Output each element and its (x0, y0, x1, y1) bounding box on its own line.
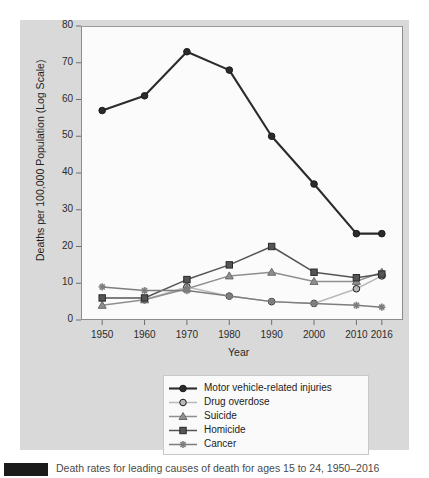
legend-label: Motor vehicle-related injuries (198, 382, 332, 393)
y-tick-label: 50 (62, 129, 73, 140)
data-point-asterisk (99, 283, 106, 290)
y-tick-label: 20 (62, 240, 73, 251)
chart-legend: Motor vehicle-related injuriesDrug overd… (163, 375, 369, 455)
data-point-circle (353, 230, 360, 237)
y-tick-label: 80 (62, 19, 73, 30)
data-point-asterisk (183, 287, 190, 294)
data-point-square (379, 271, 385, 277)
figure-caption: Death rates for leading causes of death … (0, 459, 429, 478)
data-point-asterisk (353, 302, 360, 309)
legend-item[interactable]: Cancer (168, 436, 362, 450)
data-point-asterisk (268, 298, 275, 305)
x-axis-title: Year (228, 346, 249, 358)
series-suicide (98, 268, 386, 308)
legend-swatch-circle-icon (168, 395, 198, 408)
data-series-layer (98, 48, 386, 310)
data-point-circle (268, 133, 275, 140)
data-point-square (180, 427, 186, 433)
data-point-square (268, 243, 274, 249)
x-tick-label: 2000 (300, 329, 328, 340)
legend-label: Suicide (198, 410, 237, 421)
legend-label: Homicide (198, 424, 246, 435)
data-point-asterisk (310, 300, 317, 307)
series-drug-overdose (141, 273, 385, 307)
data-point-circle (353, 285, 360, 292)
legend-swatch-square-icon (168, 423, 198, 436)
data-point-square (311, 269, 317, 275)
y-tick-label: 30 (62, 203, 73, 214)
data-point-square (226, 262, 232, 268)
data-point-square (99, 295, 105, 301)
data-point-asterisk (226, 293, 233, 300)
chart-panel: 01020304050607080 1950196019701980199020… (20, 20, 409, 450)
x-tick-label: 1950 (88, 329, 116, 340)
series-motor-vehicle-related-injuries (99, 48, 385, 237)
legend-swatch-asterisk-icon (168, 437, 198, 450)
legend-swatch-circle-icon (168, 381, 198, 394)
legend-swatch-triangle-icon (168, 409, 198, 422)
legend-item[interactable]: Homicide (168, 422, 362, 436)
y-tick-label: 40 (62, 166, 73, 177)
data-point-square (353, 275, 359, 281)
y-axis-title: Deaths per 100,000 Population (Log Scale… (34, 60, 46, 261)
x-tick-label: 2010 (342, 329, 370, 340)
x-tick-label: 2016 (368, 329, 396, 340)
data-point-circle (311, 181, 318, 188)
x-tick-label: 1960 (131, 329, 159, 340)
data-point-circle (141, 93, 148, 100)
legend-label: Drug overdose (198, 396, 270, 407)
data-point-asterisk (378, 304, 385, 311)
y-tick-label: 70 (62, 56, 73, 67)
legend-item[interactable]: Drug overdose (168, 394, 362, 408)
data-point-circle (99, 107, 106, 114)
x-tick-label: 1980 (215, 329, 243, 340)
data-point-circle (184, 48, 191, 55)
data-point-asterisk (179, 440, 186, 447)
x-tick-label: 1990 (258, 329, 286, 340)
legend-label: Cancer (198, 438, 236, 449)
data-point-circle (180, 399, 187, 406)
caption-text: Death rates for leading causes of death … (56, 462, 379, 474)
data-point-circle (180, 385, 187, 392)
y-tick-label: 10 (62, 276, 73, 287)
y-tick-label: 60 (62, 93, 73, 104)
data-point-asterisk (141, 287, 148, 294)
y-tick-label: 0 (67, 313, 73, 324)
chart-figure: 01020304050607080 1950196019701980199020… (0, 0, 429, 478)
data-point-circle (379, 230, 386, 237)
x-tick-label: 1970 (173, 329, 201, 340)
data-point-circle (226, 67, 233, 74)
legend-item[interactable]: Suicide (168, 408, 362, 422)
legend-item[interactable]: Motor vehicle-related injuries (168, 380, 362, 394)
caption-badge (4, 463, 48, 476)
data-point-square (141, 295, 147, 301)
data-point-square (184, 276, 190, 282)
